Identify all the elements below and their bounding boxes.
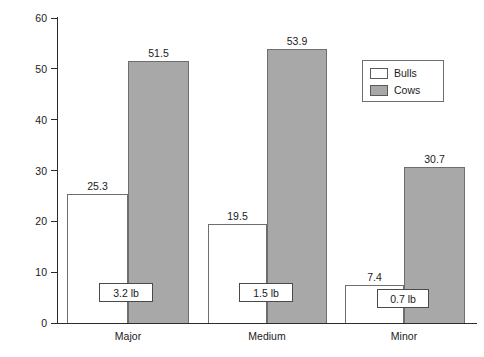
y-tick-label-20: 20 (35, 215, 47, 227)
y-tick-40: 40 (51, 119, 57, 120)
y-axis-line (57, 17, 58, 324)
legend-swatch-bulls-icon (370, 68, 388, 79)
legend-label-bulls: Bulls (394, 68, 417, 79)
weight-callout-medium: 1.5 lb (239, 283, 293, 302)
y-tick-0: 0 (51, 323, 57, 324)
y-tick-10: 10 (51, 272, 57, 273)
y-tick-label-50: 50 (35, 63, 47, 75)
bar-value-major-cows: 51.5 (148, 47, 168, 59)
y-tick-label-0: 0 (41, 317, 47, 329)
legend: Bulls Cows (362, 60, 444, 102)
bar-medium-bulls: 19.5 (208, 224, 267, 323)
legend-label-cows: Cows (394, 85, 420, 96)
weight-callout-minor: 0.7 lb (377, 289, 429, 308)
y-tick-label-40: 40 (35, 114, 47, 126)
x-category-label-medium: Medium (248, 330, 285, 342)
bar-medium-cows: 53.9 (267, 49, 327, 323)
y-tick-30: 30 (51, 170, 57, 171)
y-tick-20: 20 (51, 221, 57, 222)
bar-value-minor-bulls: 7.4 (367, 271, 382, 283)
y-tick-label-10: 10 (35, 266, 47, 278)
y-tick-50: 50 (51, 68, 57, 69)
bar-major-bulls: 25.3 (67, 194, 128, 323)
weight-callout-major: 3.2 lb (99, 283, 153, 302)
bar-value-medium-cows: 53.9 (287, 35, 307, 47)
legend-swatch-cows-icon (370, 85, 388, 96)
bar-chart: % Frequency 60 50 40 30 20 10 0 25.3 51.… (0, 0, 484, 357)
x-category-label-minor: Minor (391, 330, 417, 342)
y-tick-60: 60 (51, 18, 57, 19)
y-tick-label-30: 30 (35, 165, 47, 177)
bar-value-minor-cows: 30.7 (424, 153, 444, 165)
y-axis-title: % Frequency (9, 0, 31, 22)
x-category-label-major: Major (115, 330, 141, 342)
bar-value-medium-bulls: 19.5 (227, 210, 247, 222)
legend-item-cows: Cows (370, 83, 443, 98)
bar-value-major-bulls: 25.3 (87, 180, 107, 192)
legend-item-bulls: Bulls (370, 66, 443, 81)
y-tick-label-60: 60 (35, 12, 47, 24)
